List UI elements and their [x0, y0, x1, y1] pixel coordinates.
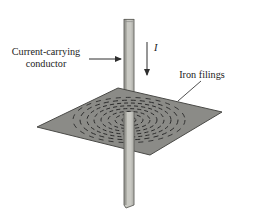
iron-filings-leader-line: [178, 81, 201, 101]
figure-canvas: Current-carrying conductor Iron filings …: [0, 0, 256, 220]
current-symbol-label: I: [153, 42, 158, 53]
conductor-rod-lower: [124, 112, 134, 208]
conductor-label-line1: Current-carrying: [12, 46, 80, 57]
conductor-label-line2: conductor: [26, 58, 67, 69]
iron-filings-label: Iron filings: [179, 69, 225, 80]
physics-figure: Current-carrying conductor Iron filings …: [0, 0, 256, 220]
